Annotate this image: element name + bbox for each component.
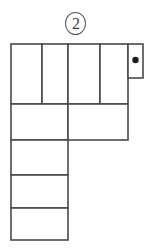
cell-row3-col1 (11, 140, 68, 175)
cell-row1-col1 (11, 44, 42, 104)
dot-marker-icon (132, 57, 138, 63)
cell-row5-col1 (11, 208, 68, 240)
cell-row4-col1 (11, 175, 68, 208)
cell-row1-col3 (68, 44, 100, 104)
polyomino-shape (0, 0, 152, 249)
cell-row2-col1 (11, 104, 68, 140)
cell-row2-col2 (68, 104, 128, 140)
figure-container: 2 (0, 0, 152, 249)
cell-row1-col2 (42, 44, 68, 104)
cell-row1-col4 (100, 44, 128, 104)
